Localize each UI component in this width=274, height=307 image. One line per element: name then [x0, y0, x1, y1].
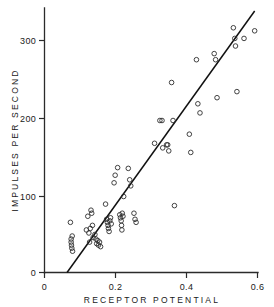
data-point [132, 211, 137, 216]
y-tick-label-200: 200 [20, 114, 36, 124]
data-point [112, 181, 117, 186]
y-tick-label-0: 0 [31, 268, 36, 278]
data-point [196, 101, 201, 106]
plot-canvas: 300 200 100 0 0 0.2 0.4 0.6 RECEPTOR POT… [0, 0, 274, 307]
data-point [87, 231, 92, 236]
data-point [166, 149, 171, 154]
data-point [171, 118, 176, 123]
scatter-plot-figure: 300 200 100 0 0 0.2 0.4 0.6 RECEPTOR POT… [0, 0, 274, 307]
data-point [169, 80, 174, 85]
data-point [194, 57, 199, 62]
x-tick-label-0.6: 0.6 [251, 282, 264, 292]
data-point [242, 36, 247, 41]
regression-line [67, 11, 255, 272]
y-axis-title: IMPULSES PER SECOND [10, 68, 20, 211]
data-point [172, 203, 177, 208]
data-point [68, 220, 73, 225]
data-point [89, 211, 94, 216]
x-tick-label-0.4: 0.4 [180, 282, 193, 292]
data-point [134, 220, 139, 225]
data-point [115, 165, 120, 170]
data-point [126, 166, 131, 171]
data-point [113, 173, 118, 178]
data-point [133, 217, 138, 222]
data-point [231, 25, 236, 30]
data-point [233, 44, 238, 49]
data-point [213, 57, 218, 62]
data-point [252, 29, 257, 34]
data-point [120, 228, 125, 233]
data-point [70, 249, 75, 254]
data-point [188, 150, 193, 155]
data-point [119, 219, 124, 224]
x-axis-title: RECEPTOR POTENTIAL [84, 295, 220, 305]
data-point [198, 111, 203, 116]
x-tick-label-0: 0 [42, 282, 47, 292]
x-tick-label-0.2: 0.2 [109, 282, 122, 292]
data-point [127, 177, 132, 182]
data-point [187, 132, 192, 137]
data-point [70, 234, 75, 239]
data-point [215, 95, 220, 100]
data-point [152, 141, 157, 146]
data-point [119, 223, 124, 228]
data-point [235, 89, 240, 94]
data-point [107, 229, 112, 234]
y-tick-label-300: 300 [20, 36, 36, 46]
y-tick-label-100: 100 [20, 192, 36, 202]
data-point [103, 202, 108, 207]
data-point [212, 51, 217, 56]
